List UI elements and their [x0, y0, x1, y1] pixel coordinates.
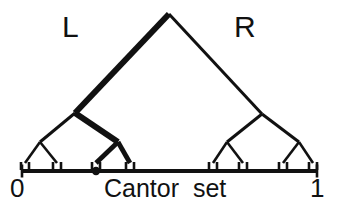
leaf-arm-right-LL — [40, 142, 57, 163]
left-branch-label: L — [62, 12, 79, 42]
tree-edges-group — [40, 14, 299, 142]
leaf-arm-left-RL — [213, 142, 227, 163]
tree-edge-L-LR — [75, 113, 118, 142]
tree-edge-R-RR — [262, 114, 299, 142]
cantor-point-marker-group — [92, 167, 100, 175]
leaf-arm-right-RR — [299, 142, 313, 163]
right-branch-label: R — [234, 12, 256, 42]
leaf-arm-left-RR — [283, 142, 299, 163]
axis-start-label: 0 — [10, 175, 24, 201]
leaf-arm-right-RL — [227, 142, 243, 163]
leaf-arm-right-LR — [118, 142, 130, 163]
tree-edge-L-LL — [40, 113, 75, 142]
leaf-arm-left-LR — [96, 142, 118, 163]
cantor-set-figure: L R 0 1 Cantor set — [0, 0, 340, 208]
cantor-point-dot — [92, 167, 100, 175]
axis-end-label: 1 — [310, 175, 324, 201]
tree-edge-R-RL — [227, 114, 262, 142]
tree-edge-root-L — [75, 14, 169, 113]
figure-caption: Cantor set — [104, 176, 226, 201]
tree-leaf-clusters-group — [21, 142, 317, 170]
leaf-arm-left-LL — [25, 142, 40, 163]
